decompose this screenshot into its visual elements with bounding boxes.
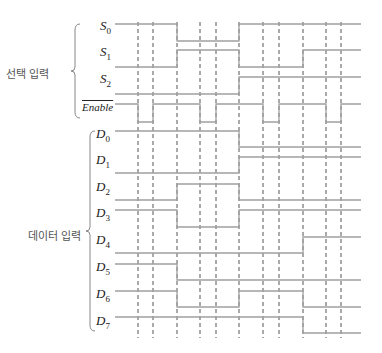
select-inputs-label: 선택 입력 (6, 65, 50, 81)
signal-label-s2: S2 (100, 71, 111, 89)
signal-label-d4: D4 (96, 232, 110, 250)
waveform-d4 (115, 237, 361, 253)
group-braces (71, 24, 95, 331)
waveform-d3 (115, 210, 361, 227)
waveform-s2 (115, 77, 361, 94)
waveform-enable (115, 104, 361, 122)
waveform-d1 (115, 157, 361, 173)
signal-label-d5: D5 (96, 259, 110, 277)
signal-label-d6: D6 (96, 286, 110, 304)
timing-diagram (0, 0, 382, 353)
signal-label-d1: D1 (96, 152, 110, 170)
signal-label-d3: D3 (96, 205, 110, 223)
waveform-d0 (115, 131, 361, 147)
waveforms (115, 24, 361, 333)
waveform-s1 (115, 50, 361, 67)
signal-label-d7: D7 (96, 313, 110, 331)
waveform-d7 (115, 317, 361, 333)
signal-label-s0: S0 (100, 18, 111, 36)
data-brace (86, 131, 95, 331)
waveform-d2 (115, 184, 361, 200)
signal-label-d2: D2 (96, 179, 110, 197)
waveform-d6 (115, 291, 361, 307)
waveform-s0 (115, 24, 361, 41)
signal-label-s1: S1 (100, 44, 111, 62)
data-inputs-label: 데이터 입력 (28, 227, 82, 243)
waveform-d5 (115, 264, 361, 280)
signal-label-enable: Enable (82, 101, 113, 113)
select-brace (71, 24, 80, 118)
signal-label-d0: D0 (96, 126, 110, 144)
